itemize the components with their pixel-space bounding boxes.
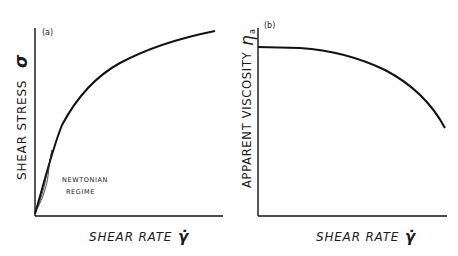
panel-a: (a) NEWTONIAN REGIME SHEAR STRESS σ SHEA…	[11, 28, 223, 246]
figure: (a) NEWTONIAN REGIME SHEAR STRESS σ SHEA…	[0, 0, 458, 256]
y-axis-label-a: SHEAR STRESS	[15, 80, 29, 180]
sigma-symbol: σ	[11, 54, 31, 68]
y-axis-label-b: APPARENT VISCOSITY	[240, 51, 254, 188]
eta-symbol: η	[237, 35, 257, 46]
panel-label-b: (b)	[264, 21, 275, 30]
annotation-newtonian: NEWTONIAN	[62, 176, 108, 184]
gamma-dot-symbol-a: γ̇	[178, 228, 190, 246]
gamma-dot-symbol-b: γ̇	[405, 228, 417, 246]
panel-b: (b) APPARENT VISCOSITY η a SHEAR RATE γ̇	[237, 21, 447, 246]
annotation-regime: REGIME	[66, 188, 95, 196]
viscosity-curve	[258, 47, 445, 128]
x-axis-label-a: SHEAR RATE	[89, 230, 172, 244]
panel-label-a: (a)	[42, 28, 53, 37]
x-axis-label-b: SHEAR RATE	[316, 230, 399, 244]
flow-curve	[35, 31, 215, 214]
eta-subscript: a	[248, 29, 257, 34]
